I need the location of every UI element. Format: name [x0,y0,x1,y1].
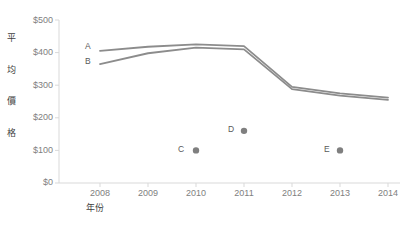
series-line-b [100,48,388,100]
scatter-point-c [193,147,199,153]
scatter-points-group [193,128,343,154]
y-tick-marks [55,20,59,183]
chart-plot-area [0,0,410,225]
series-line-a [100,44,388,97]
chart-container: 平 均 價 格 年份 $500 $400 $300 $200 $100 $0 2… [0,0,410,225]
x-tick-marks [100,183,388,187]
scatter-point-e [337,147,343,153]
scatter-point-d [241,128,247,134]
